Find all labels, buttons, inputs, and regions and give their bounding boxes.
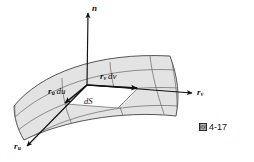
figure-caption-number: 4-17	[209, 122, 227, 132]
label-normal-vector-n: n	[92, 4, 97, 13]
surface-diagram-canvas	[0, 0, 254, 162]
label-differential-rv-dv: rvdv	[100, 72, 116, 82]
figure-caption: 図4-17	[199, 123, 227, 132]
label-area-element-dS: dS	[84, 97, 93, 106]
label-differential-ru-du: rudu	[48, 87, 66, 97]
label-tangent-vector-rv: rv	[197, 88, 203, 98]
figure-surface-element: n rv ru rvdv rudu dS 図4-17	[0, 0, 254, 162]
label-tangent-vector-ru: ru	[14, 142, 21, 152]
figure-marker-icon: 図	[199, 123, 207, 131]
